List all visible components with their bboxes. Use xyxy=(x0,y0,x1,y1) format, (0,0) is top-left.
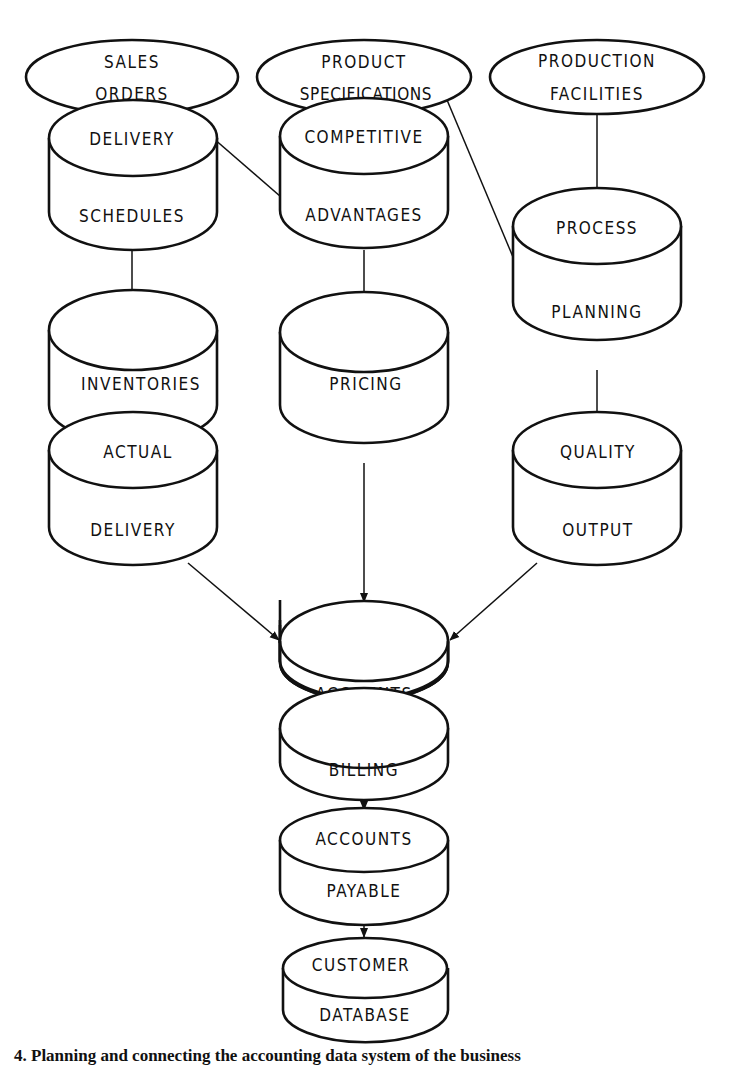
store-label-line2: SCHEDULES xyxy=(79,206,185,226)
store-actual-delivery: ACTUAL DELIVERY xyxy=(49,412,217,565)
store-label-line2: PLANNING xyxy=(551,302,642,322)
source-label-line1: SALES xyxy=(104,52,160,72)
store-customer-database: CUSTOMER DATABASE xyxy=(283,938,448,1042)
store-label-line2: INVENTORIES xyxy=(81,374,201,394)
store-billing: BILLING xyxy=(280,688,448,800)
store-label-line1: QUALITY xyxy=(560,442,636,462)
store-label-line2: DELIVERY xyxy=(90,520,175,540)
store-label-line1: PROCESS xyxy=(556,218,638,238)
store-delivery-schedules: DELIVERY SCHEDULES xyxy=(49,100,217,250)
store-label-line2: BILLING xyxy=(329,760,399,780)
source-label-line1: PRODUCTION xyxy=(538,51,656,71)
source-label-line2: FACILITIES xyxy=(550,84,644,104)
store-label-line2: OUTPUT xyxy=(562,520,633,540)
store-label-line2: DATABASE xyxy=(319,1005,410,1025)
store-label-line1: ACTUAL xyxy=(103,442,172,462)
edge-quality-output-to-accounts xyxy=(450,563,537,640)
store-pricing: PRICING xyxy=(280,292,448,443)
figure-caption: 4. Planning and connecting the accountin… xyxy=(14,1046,521,1066)
store-label-line1: COMPETITIVE xyxy=(304,127,423,147)
edge-actual-delivery-to-accounts xyxy=(188,563,279,640)
store-label-line1: ACCOUNTS xyxy=(315,829,412,849)
source-label-line1: PRODUCT xyxy=(321,52,406,72)
store-label-line2: PAYABLE xyxy=(327,881,402,901)
store-quality-output: QUALITY OUTPUT xyxy=(513,412,681,565)
store-label-line1: CUSTOMER xyxy=(312,955,410,975)
store-accounts-payable: ACCOUNTS PAYABLE xyxy=(280,808,448,925)
store-label-line2: ADVANTAGES xyxy=(305,205,423,225)
store-label-line2: PRICING xyxy=(329,374,402,394)
store-label-line1: DELIVERY xyxy=(89,129,174,149)
store-competitive-advantages: COMPETITIVE ADVANTAGES xyxy=(280,98,448,248)
store-process-planning: PROCESS PLANNING xyxy=(513,188,681,340)
source-production-facilities: PRODUCTION FACILITIES xyxy=(490,40,704,114)
